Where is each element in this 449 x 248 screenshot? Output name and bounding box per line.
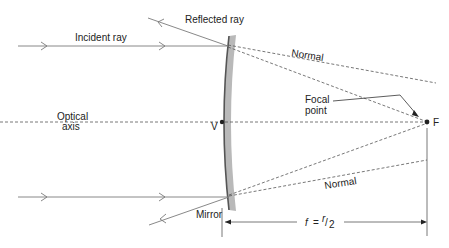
focus-label: F: [433, 117, 439, 128]
focal-point-label-line2: point: [305, 105, 327, 116]
focal-length-label: f = r / 2: [305, 213, 335, 230]
arrowhead-icon: [421, 220, 427, 225]
focus-dot: [425, 120, 430, 125]
svg-text:2: 2: [329, 219, 335, 230]
optical-axis-label-line2: axis: [62, 121, 80, 132]
incident-ray-label: Incident ray: [75, 32, 127, 43]
arrowhead-icon: [225, 220, 231, 225]
bottom-normal-label: Normal: [324, 175, 358, 191]
bottom-normal-line: [229, 160, 427, 196]
arrowhead-icon: [412, 110, 419, 117]
svg-text:f: f: [305, 217, 309, 228]
top-normal-line: [228, 45, 436, 83]
arrow-icon: [160, 214, 166, 223]
top-normal-label: Normal: [291, 47, 325, 63]
reflected-ray-label: Reflected ray: [185, 14, 244, 25]
focal-point-label-line1: Focal: [305, 94, 329, 105]
vertex-dot: [220, 120, 224, 124]
concave-mirror-diagram: V F Reflected ray Incident ray Normal Op…: [0, 0, 449, 248]
svg-text:=: =: [313, 217, 319, 228]
vertex-label: V: [211, 121, 218, 132]
focal-point-leader: [333, 95, 417, 115]
svg-text:/: /: [325, 217, 328, 228]
mirror-label: Mirror: [196, 209, 223, 220]
